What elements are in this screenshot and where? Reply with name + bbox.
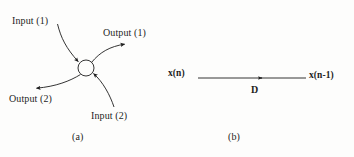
- panel-b-caption: (b): [228, 131, 240, 142]
- signal-input-label: x(n): [168, 68, 185, 79]
- output-1-label: Output (1): [103, 27, 146, 38]
- figure-canvas: Input (1) Output (1) Output (2) Input (2…: [0, 0, 354, 157]
- signal-output-label: x(n-1): [309, 70, 334, 81]
- panel-a-caption: (a): [72, 131, 83, 142]
- output-2-arrow: [37, 75, 81, 89]
- input-1-arrow: [58, 24, 79, 62]
- output-2-label: Output (2): [9, 93, 52, 104]
- delay-operator-label: D: [251, 84, 258, 95]
- input-2-arrow: [94, 74, 114, 107]
- input-2-label: Input (2): [91, 110, 127, 121]
- input-1-label: Input (1): [12, 15, 48, 26]
- output-1-arrow: [92, 44, 125, 62]
